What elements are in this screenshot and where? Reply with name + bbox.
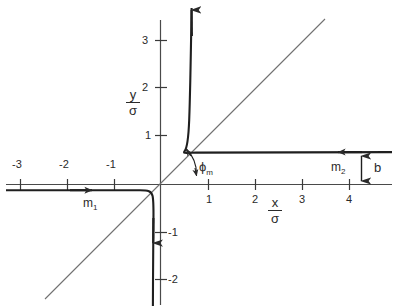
phi-m-subscript: m — [206, 168, 213, 177]
trajectory-branch-m1 — [6, 190, 154, 306]
y-tick-label--1: -1 — [168, 227, 178, 238]
x-tick-label--2: -2 — [59, 159, 69, 170]
figure-container: -3 -2 -1 1 2 3 4 3 2 1 -1 -2 y σ x σ ϕm … — [0, 0, 394, 307]
plot-canvas — [0, 0, 394, 307]
m2-curve-path — [184, 8, 392, 153]
y-axis-denominator: σ — [126, 103, 140, 117]
x-tick-label-1: 1 — [206, 194, 212, 205]
branch-label-m2: m2 — [331, 161, 345, 176]
branch-label-m1: m1 — [83, 197, 97, 212]
x-tick-label-4: 4 — [346, 194, 352, 205]
y-tick-label-3: 3 — [142, 35, 148, 46]
x-axis-denominator: σ — [268, 211, 282, 225]
trajectory-branch-m2 — [184, 8, 392, 153]
y-tick-label--2: -2 — [168, 274, 178, 285]
impact-parameter-label: b — [374, 161, 381, 174]
x-tick-label--1: -1 — [106, 159, 116, 170]
x-tick-label-2: 2 — [252, 194, 258, 205]
y-axis-fraction: y σ — [126, 88, 140, 118]
x-axis-fraction: x σ — [268, 196, 282, 226]
m1-subscript: 1 — [93, 203, 97, 212]
y-axis-numerator: y — [126, 88, 140, 103]
x-axis-title: x σ — [268, 196, 282, 226]
y-axis-title: y σ — [126, 88, 140, 118]
m1-curve-path — [6, 190, 154, 306]
y-tick-label-1: 1 — [145, 130, 151, 141]
m2-subscript: 2 — [341, 167, 345, 176]
asymptote-diagonal-line — [45, 19, 325, 299]
x-axis-numerator: x — [268, 196, 282, 211]
x-tick-label-3: 3 — [299, 194, 305, 205]
phi-m-label: ϕm — [199, 160, 213, 177]
m1-symbol: m — [83, 196, 93, 210]
x-tick-label--3: -3 — [12, 159, 22, 170]
y-tick-label-2: 2 — [142, 82, 148, 93]
m2-symbol: m — [331, 160, 341, 174]
